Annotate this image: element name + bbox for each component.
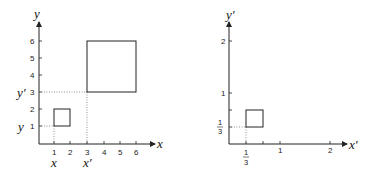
right-dotted-guides: [229, 127, 246, 144]
right-plot: x′ y′ 1 2 1 2 1 3 1 3: [217, 7, 358, 167]
left-y-tick-2: 2: [30, 105, 35, 114]
left-y-tick-4: 4: [30, 71, 35, 80]
left-y-tick-6: 6: [30, 37, 35, 46]
left-x-prime-marker: x′: [82, 155, 92, 170]
left-dotted-guides: [39, 92, 87, 144]
left-x-tick-6: 6: [134, 148, 139, 157]
left-y-axis-label: y: [32, 6, 40, 21]
svg-text:3: 3: [244, 158, 248, 167]
right-y-frac-label: 1 3: [217, 118, 223, 136]
left-y-marker: y: [16, 119, 24, 134]
diagram-svg: x y 1 2 3 4 5 6 1 2 3 4 5 6: [0, 0, 378, 172]
left-plot: x y 1 2 3 4 5 6 1 2 3 4 5 6: [15, 6, 163, 170]
svg-text:1: 1: [244, 148, 248, 157]
left-x-axis-label: x: [156, 136, 163, 151]
right-x-axis-label: x′: [348, 137, 358, 152]
right-square: [246, 110, 263, 127]
right-x-tick-2: 2: [328, 146, 333, 155]
left-small-square: [54, 109, 70, 126]
left-y-tick-5: 5: [30, 54, 35, 63]
right-y-axis-label: y′: [224, 7, 235, 22]
left-y-tick-1: 1: [30, 122, 35, 131]
left-x-tick-5: 5: [118, 148, 123, 157]
right-y-tick-2: 2: [221, 37, 226, 46]
svg-text:1: 1: [218, 118, 222, 127]
diagram-stage: x y 1 2 3 4 5 6 1 2 3 4 5 6: [0, 0, 378, 172]
right-x-tick-1: 1: [278, 146, 283, 155]
left-x-marker: x: [50, 155, 57, 170]
svg-text:3: 3: [218, 127, 222, 136]
left-large-square: [87, 41, 136, 92]
left-y-tick-3: 3: [30, 88, 35, 97]
left-x-tick-4: 4: [102, 148, 107, 157]
left-y-prime-marker: y′: [15, 85, 26, 100]
right-y-tick-1: 1: [221, 89, 226, 98]
right-x-frac-label: 1 3: [243, 148, 249, 167]
left-x-tick-2: 2: [68, 148, 73, 157]
